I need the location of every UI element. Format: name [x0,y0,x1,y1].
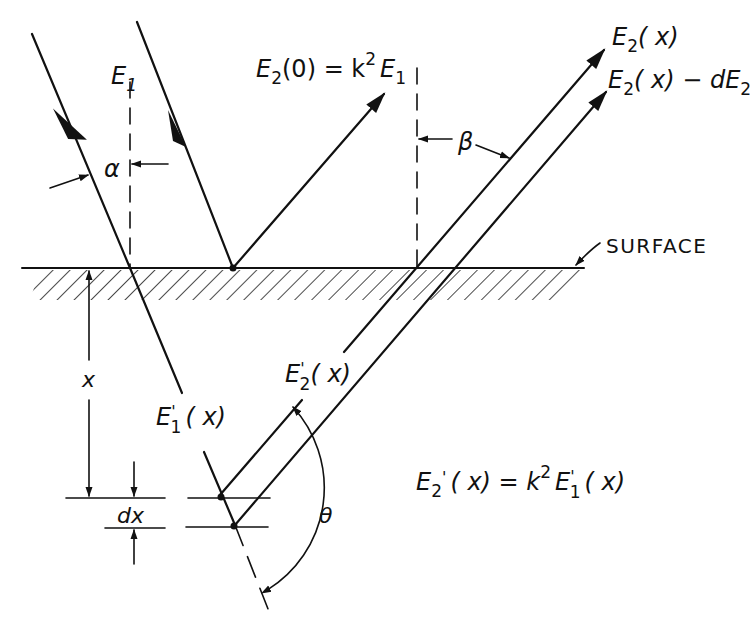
equation-e2-prime: E2'( x) = k2E'1( x) [416,462,625,502]
beta-arrow-right [476,145,509,158]
label-e2-0: E2(0) = k2E1 [256,49,406,88]
alpha-arrow-left [50,175,88,188]
arrow-head-e1 [53,101,87,147]
label-theta: θ [319,503,333,528]
label-beta: β [457,128,473,156]
reflection-point-dot [230,265,237,272]
label-e1-prime: E'1( x) [156,402,226,437]
label-x: x [81,367,96,392]
label-dx: dx [117,503,145,528]
surface-hatching [0,270,755,312]
layer-top-dot [218,494,225,501]
label-e2-prime: E'2( x) [285,359,351,394]
label-e2x: E2( x) [612,23,679,56]
ray-e2-prime-segment [220,400,302,495]
label-e1: E1 [111,62,137,95]
reflection-diagram: E1 α E2(0) = k2E1 β E2( x) E2( x) − dE2 … [0,0,755,636]
reflected-ray-e2-0 [233,94,384,268]
label-surface: SURFACE [606,234,707,258]
label-e2x-minus-de2: E2( x) − dE2 [608,66,751,99]
surface-pointer [576,243,600,265]
layer-bottom-dot [231,523,238,530]
label-alpha: α [104,155,120,183]
incident-ray-continuation-dashed [235,525,270,614]
